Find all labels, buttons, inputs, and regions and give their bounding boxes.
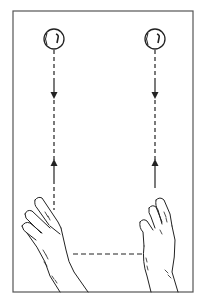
left-trajectory [51, 50, 58, 210]
right-trajectory [152, 50, 159, 188]
arrow-up-icon [152, 159, 159, 166]
right-ball-icon [145, 29, 165, 49]
left-hand-icon [22, 197, 88, 292]
left-ball-icon [44, 29, 64, 49]
diagram-frame [13, 11, 193, 292]
arrow-up-icon [51, 159, 58, 166]
arrow-down-icon [152, 92, 159, 99]
right-hand-icon [140, 198, 178, 292]
arrow-down-icon [51, 92, 58, 99]
juggling-diagram [0, 0, 206, 302]
